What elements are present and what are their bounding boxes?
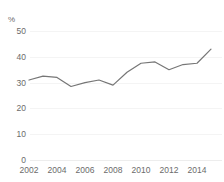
series-line (0, 0, 224, 182)
x-tick-label: 2002 (14, 166, 44, 175)
x-tick-label: 2004 (42, 166, 72, 175)
line-chart: % 50403020100 20022004200620082010201220… (0, 0, 224, 182)
plot-area (0, 0, 224, 182)
x-tick-label: 2010 (126, 166, 156, 175)
x-tick-label: 2014 (182, 166, 212, 175)
x-tick-label: 2008 (98, 166, 128, 175)
x-tick-label: 2006 (70, 166, 100, 175)
x-tick-label: 2012 (154, 166, 184, 175)
